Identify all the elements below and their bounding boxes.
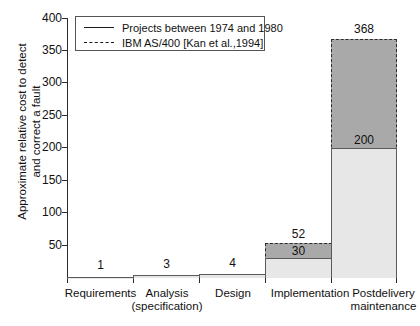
legend-dashed-line-icon bbox=[82, 38, 116, 48]
x-tick-mark-5 bbox=[396, 278, 397, 283]
x-label-analysis: Analysis (specification) bbox=[119, 287, 215, 313]
y-tick-label-250: 250 bbox=[28, 108, 62, 122]
value-label-implementation-solid: 30 bbox=[265, 244, 332, 258]
chart-container: Approximate relative cost to detect and … bbox=[0, 0, 420, 326]
bar-implementation-solid bbox=[265, 258, 332, 278]
legend-solid-line-icon bbox=[82, 23, 116, 33]
legend: Projects between 1974 and 1980 IBM AS/40… bbox=[75, 16, 265, 51]
value-label-design: 4 bbox=[199, 256, 266, 270]
value-label-implementation-dashed: 52 bbox=[265, 227, 332, 241]
x-tick-mark-2 bbox=[199, 278, 200, 283]
y-tick-label-300: 300 bbox=[28, 75, 62, 89]
value-label-requirements: 1 bbox=[67, 258, 134, 272]
bar-requirements-solid bbox=[67, 277, 134, 279]
bar-design-solid bbox=[199, 274, 266, 278]
x-label-postdelivery: Postdelivery maintenance bbox=[345, 287, 420, 313]
legend-label-projects: Projects between 1974 and 1980 bbox=[122, 22, 283, 34]
x-tick-mark-1 bbox=[133, 278, 134, 283]
legend-entry-projects: Projects between 1974 and 1980 bbox=[82, 20, 258, 35]
value-label-postdelivery-dashed: 368 bbox=[331, 22, 397, 36]
x-tick-mark-3 bbox=[265, 278, 266, 283]
legend-entry-ibm: IBM AS/400 [Kan et al.,1994] bbox=[82, 35, 258, 50]
x-tick-mark-0 bbox=[67, 278, 68, 283]
bar-postdelivery-solid bbox=[331, 148, 397, 278]
value-label-postdelivery-solid: 200 bbox=[331, 133, 397, 147]
y-tick-label-100: 100 bbox=[28, 205, 62, 219]
y-tick-label-400: 400 bbox=[28, 11, 62, 25]
y-tick-label-50: 50 bbox=[28, 238, 62, 252]
x-label-design: Design bbox=[202, 287, 264, 300]
y-tick-label-150: 150 bbox=[28, 173, 62, 187]
y-axis-line bbox=[67, 18, 68, 278]
bar-analysis-solid bbox=[133, 275, 200, 278]
y-tick-label-350: 350 bbox=[28, 43, 62, 57]
x-tick-mark-4 bbox=[331, 278, 332, 283]
value-label-analysis: 3 bbox=[133, 257, 200, 271]
y-tick-label-200: 200 bbox=[28, 140, 62, 154]
legend-label-ibm: IBM AS/400 [Kan et al.,1994] bbox=[122, 37, 263, 49]
